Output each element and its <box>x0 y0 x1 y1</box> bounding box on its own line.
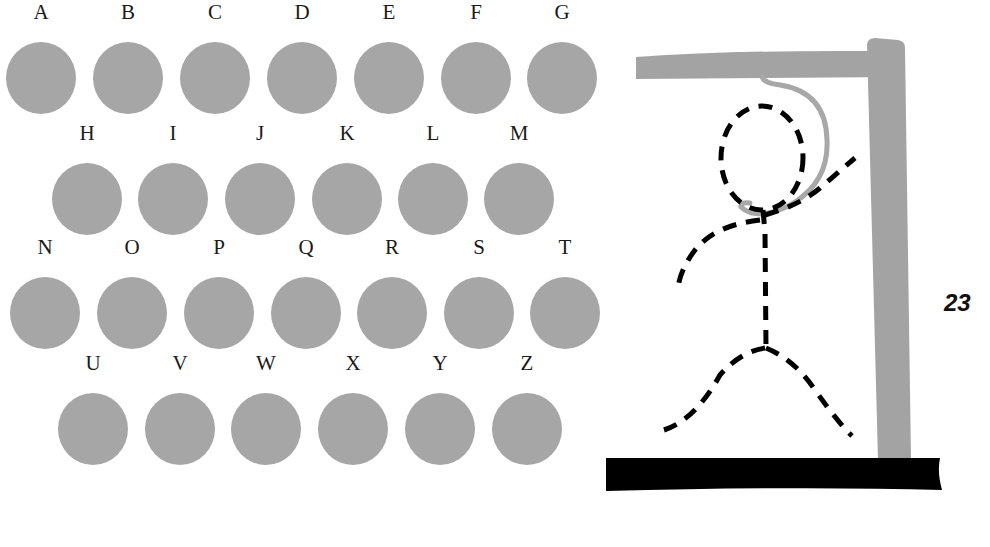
letter-label: Y <box>405 351 475 376</box>
letter-button-y[interactable]: Y <box>405 393 475 465</box>
letter-button-g[interactable]: G <box>527 42 597 114</box>
letter-label: I <box>138 121 208 146</box>
hangman-drawing <box>600 30 950 500</box>
letter-disc[interactable] <box>6 42 76 114</box>
letter-button-m[interactable]: M <box>484 163 554 235</box>
letter-button-r[interactable]: R <box>357 277 427 349</box>
letter-label: T <box>530 235 600 260</box>
gallows-base <box>606 458 942 491</box>
letter-disc[interactable] <box>145 393 215 465</box>
letter-label: X <box>318 351 388 376</box>
letter-disc[interactable] <box>225 163 295 235</box>
gallows-top-beam <box>636 51 905 79</box>
letter-button-t[interactable]: T <box>530 277 600 349</box>
letter-button-a[interactable]: A <box>6 42 76 114</box>
letter-label: S <box>444 235 514 260</box>
letter-disc[interactable] <box>444 277 514 349</box>
letter-disc[interactable] <box>530 277 600 349</box>
letter-label: L <box>398 121 468 146</box>
letter-button-s[interactable]: S <box>444 277 514 349</box>
letter-disc[interactable] <box>484 163 554 235</box>
letter-label: U <box>58 351 128 376</box>
letter-button-b[interactable]: B <box>93 42 163 114</box>
letter-disc[interactable] <box>138 163 208 235</box>
letter-disc[interactable] <box>58 393 128 465</box>
letter-disc[interactable] <box>231 393 301 465</box>
letter-button-q[interactable]: Q <box>271 277 341 349</box>
letter-label: E <box>354 0 424 25</box>
letter-button-c[interactable]: C <box>180 42 250 114</box>
letter-disc[interactable] <box>93 42 163 114</box>
letter-label: R <box>357 235 427 260</box>
letter-label: D <box>267 0 337 25</box>
letter-label: A <box>6 0 76 25</box>
letter-disc[interactable] <box>10 277 80 349</box>
letter-button-n[interactable]: N <box>10 277 80 349</box>
letter-disc[interactable] <box>184 277 254 349</box>
letter-disc[interactable] <box>441 42 511 114</box>
score-counter: 23 <box>944 289 971 317</box>
letter-disc[interactable] <box>354 42 424 114</box>
letter-label: O <box>97 235 167 260</box>
letter-label: K <box>312 121 382 146</box>
letter-button-d[interactable]: D <box>267 42 337 114</box>
letter-disc[interactable] <box>267 42 337 114</box>
stickman-right-leg <box>766 348 852 436</box>
letter-label: C <box>180 0 250 25</box>
letter-disc[interactable] <box>527 42 597 114</box>
letter-disc[interactable] <box>312 163 382 235</box>
letter-label: H <box>52 121 122 146</box>
letter-label: Z <box>492 351 562 376</box>
stickman-left-leg <box>664 348 765 430</box>
letter-label: V <box>145 351 215 376</box>
letter-button-w[interactable]: W <box>231 393 301 465</box>
letter-disc[interactable] <box>405 393 475 465</box>
letter-button-p[interactable]: P <box>184 277 254 349</box>
letter-button-o[interactable]: O <box>97 277 167 349</box>
stickman-body <box>763 210 766 348</box>
letter-button-h[interactable]: H <box>52 163 122 235</box>
letter-button-k[interactable]: K <box>312 163 382 235</box>
letter-disc[interactable] <box>271 277 341 349</box>
letter-label: Q <box>271 235 341 260</box>
letter-button-l[interactable]: L <box>398 163 468 235</box>
letter-label: W <box>231 351 301 376</box>
letter-disc[interactable] <box>357 277 427 349</box>
letter-button-z[interactable]: Z <box>492 393 562 465</box>
letter-button-j[interactable]: J <box>225 163 295 235</box>
letter-disc[interactable] <box>318 393 388 465</box>
letter-label: G <box>527 0 597 25</box>
letter-label: P <box>184 235 254 260</box>
letter-button-f[interactable]: F <box>441 42 511 114</box>
stickman-head <box>721 106 803 210</box>
letter-label: B <box>93 0 163 25</box>
letter-label: N <box>10 235 80 260</box>
letter-label: M <box>484 121 554 146</box>
gallows-upright-post <box>867 38 911 460</box>
letter-button-x[interactable]: X <box>318 393 388 465</box>
letter-button-i[interactable]: I <box>138 163 208 235</box>
letter-disc[interactable] <box>52 163 122 235</box>
letter-disc[interactable] <box>398 163 468 235</box>
letter-label: J <box>225 121 295 146</box>
letter-disc[interactable] <box>97 277 167 349</box>
letter-label: F <box>441 0 511 25</box>
letter-disc[interactable] <box>180 42 250 114</box>
letter-button-v[interactable]: V <box>145 393 215 465</box>
letter-disc[interactable] <box>492 393 562 465</box>
stickman-left-arm <box>678 220 760 288</box>
letter-button-u[interactable]: U <box>58 393 128 465</box>
letter-button-e[interactable]: E <box>354 42 424 114</box>
